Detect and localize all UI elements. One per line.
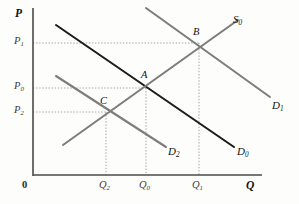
price-tick-p1-sub: 1 xyxy=(20,40,23,47)
quantity-tick-q1-base: Q xyxy=(192,179,200,190)
quantity-tick-q0-base: Q xyxy=(139,179,147,190)
curve-d1 xyxy=(146,8,270,97)
quantity-tick-q0: Q0 xyxy=(139,180,150,191)
curve-label-d2: D2 xyxy=(168,146,180,159)
curve-label-d2-base: D xyxy=(168,145,176,157)
point-label-b: B xyxy=(193,27,199,38)
price-tick-p0-sub: 0 xyxy=(20,85,23,92)
price-tick-p1: P1 xyxy=(14,36,24,47)
x-axis-label: Q xyxy=(246,180,254,192)
curve-label-d0-base: D xyxy=(237,145,245,157)
curve-s0 xyxy=(63,20,238,145)
quantity-tick-q2-base: Q xyxy=(99,179,107,190)
figure-canvas xyxy=(0,0,299,204)
quantity-tick-q1: Q1 xyxy=(192,180,203,191)
quantity-tick-q1-sub: 1 xyxy=(200,184,203,191)
y-axis-label: P xyxy=(15,8,22,20)
curve-label-s0-sub: 0 xyxy=(239,19,243,27)
curve-label-d2-sub: 2 xyxy=(176,151,180,159)
curve-label-d1-sub: 1 xyxy=(280,105,284,113)
price-tick-p2: P2 xyxy=(14,105,24,116)
quantity-tick-q2-sub: 2 xyxy=(107,184,110,191)
curve-label-d1-base: D xyxy=(272,99,280,111)
quantity-tick-q2: Q2 xyxy=(99,180,110,191)
curve-label-d0: D0 xyxy=(237,146,249,159)
price-tick-p2-sub: 2 xyxy=(20,109,23,116)
curve-label-s0: S0 xyxy=(233,14,242,27)
supply-demand-figure: P Q 0 P1 P0 P2 Q2 Q0 Q1 S0 D1 D0 D2 A B … xyxy=(0,0,299,204)
curve-label-d1: D1 xyxy=(272,100,284,113)
quantity-tick-q0-sub: 0 xyxy=(147,184,150,191)
origin-label: 0 xyxy=(22,180,27,191)
point-label-a: A xyxy=(141,70,147,81)
point-label-c: C xyxy=(100,96,107,107)
curve-label-d0-sub: 0 xyxy=(245,151,249,159)
price-tick-p0: P0 xyxy=(14,81,24,92)
